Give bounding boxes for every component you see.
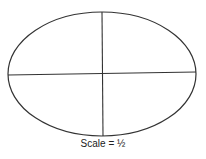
- scale-caption: Scale = ½: [0, 137, 206, 151]
- ellipse-diagram: [0, 0, 206, 159]
